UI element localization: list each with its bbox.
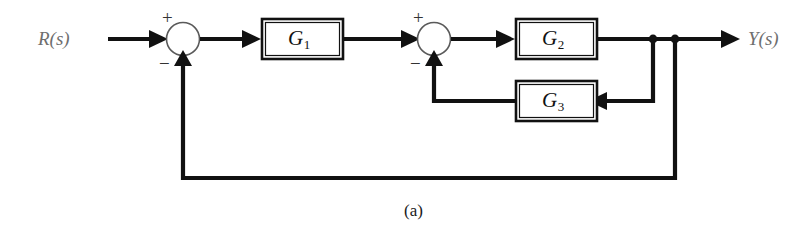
block-g1-label: G1	[288, 28, 310, 49]
diagram-canvas	[0, 0, 809, 231]
sum2-plus-sign: +	[413, 8, 424, 27]
block-g2-subscript: 2	[558, 37, 565, 52]
arrowhead-into-g2	[496, 30, 515, 48]
block-g1-subscript: 1	[304, 37, 311, 52]
output-signal-label: Y(s)	[748, 29, 779, 48]
arrowhead-into-sum1	[149, 30, 168, 48]
block-g1-letter: G	[288, 26, 303, 50]
arrowhead-output	[721, 30, 740, 48]
arrowhead-into-g1	[242, 30, 261, 48]
wire-g3-to-sum2	[434, 62, 516, 101]
figure-caption: (a)	[404, 202, 423, 219]
sum1-plus-sign: +	[162, 8, 173, 27]
block-g2-label: G2	[542, 28, 564, 49]
input-signal-label: R(s)	[38, 29, 70, 48]
sum2-minus-sign: −	[410, 54, 421, 73]
block-g3-label: G3	[542, 90, 564, 111]
block-g3-letter: G	[542, 88, 557, 112]
sum1-minus-sign: −	[159, 54, 170, 73]
wire-inner-feedback-to-g3	[607, 39, 653, 101]
block-diagram-figure: R(s) Y(s) G1 G2 G3 + − + − (a)	[0, 0, 809, 231]
block-g3-subscript: 3	[558, 99, 565, 114]
block-g2-letter: G	[542, 26, 557, 50]
